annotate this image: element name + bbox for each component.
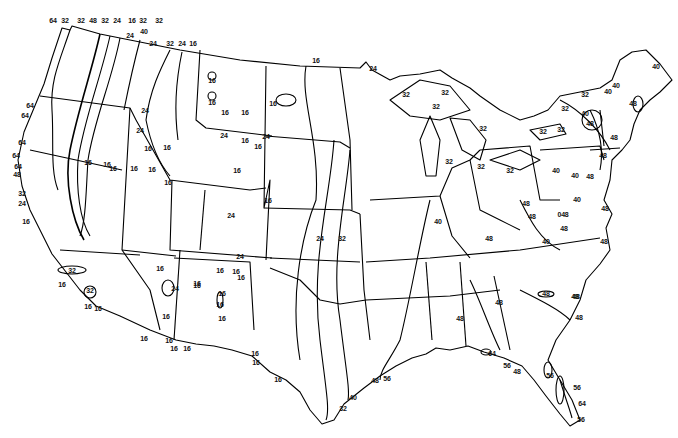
contour-label: 32 bbox=[61, 17, 68, 24]
contour-label: 16 bbox=[163, 144, 170, 151]
contour-label: 16 bbox=[164, 179, 171, 186]
contour-label: 32 bbox=[506, 167, 513, 174]
contour-label: 64 bbox=[18, 139, 25, 146]
contour-label: 48 bbox=[89, 17, 96, 24]
contour-label: 16 bbox=[216, 301, 223, 308]
contour-label: 16 bbox=[193, 282, 200, 289]
contour-label: 16 bbox=[162, 313, 169, 320]
contour-label: 16 bbox=[221, 109, 228, 116]
contour-label: 24 bbox=[126, 32, 133, 39]
contour-label: 40 bbox=[652, 63, 659, 70]
contour-label: 40 bbox=[542, 238, 549, 245]
contour-label: 32 bbox=[101, 17, 108, 24]
contour-label: 48 bbox=[586, 120, 593, 127]
contour-label: 16 bbox=[237, 274, 244, 281]
us-outline bbox=[18, 26, 672, 426]
contour-label: 64 bbox=[26, 102, 33, 109]
contour-label: 24 bbox=[171, 285, 178, 292]
contour-label: 24 bbox=[369, 65, 376, 72]
contour-label: 48 bbox=[485, 235, 492, 242]
contour-label: 48 bbox=[528, 213, 535, 220]
contour-label: 16 bbox=[241, 109, 248, 116]
contour-label: 16 bbox=[94, 305, 101, 312]
contour-label: 40 bbox=[552, 167, 559, 174]
contour-label: 40 bbox=[571, 172, 578, 179]
contour-label: 24 bbox=[262, 133, 269, 140]
contour-label: 32 bbox=[479, 125, 486, 132]
contour-label: 48 bbox=[586, 173, 593, 180]
contour-label: 16 bbox=[165, 337, 172, 344]
contour-label: 32 bbox=[338, 235, 345, 242]
contour-label: 32 bbox=[561, 105, 568, 112]
contour-label: 56 bbox=[503, 362, 510, 369]
contour-label: 24 bbox=[18, 200, 25, 207]
contour-label: 16 bbox=[84, 303, 91, 310]
contour-label: 16 bbox=[264, 197, 271, 204]
contour-label: 16 bbox=[252, 359, 259, 366]
contour-label: 48 bbox=[542, 290, 549, 297]
contour-label: 40 bbox=[604, 88, 611, 95]
contour-label: 048 bbox=[557, 211, 568, 218]
contour-label: 16 bbox=[269, 100, 276, 107]
contour-label: 16 bbox=[216, 267, 223, 274]
contour-label: 40 bbox=[573, 196, 580, 203]
contour-label: 48 bbox=[629, 100, 636, 107]
contour-label: 40 bbox=[349, 394, 356, 401]
contour-label: 48 bbox=[601, 205, 608, 212]
contour-label: 48 bbox=[600, 238, 607, 245]
contour-label: 48 bbox=[495, 299, 502, 306]
contour-label: 24 bbox=[113, 17, 120, 24]
contour-label: 16 bbox=[189, 40, 196, 47]
contour-label: 32 bbox=[139, 17, 146, 24]
contour-label: 40 bbox=[581, 110, 588, 117]
contour-label: 16 bbox=[140, 335, 147, 342]
contour-label: 16 bbox=[233, 167, 240, 174]
contour-label: 16 bbox=[312, 57, 319, 64]
contour-label: 32 bbox=[166, 40, 173, 47]
contour-label: 64 bbox=[488, 350, 495, 357]
contour-label: 48 bbox=[371, 377, 378, 384]
contour-label: 24 bbox=[178, 40, 185, 47]
contour-label: 24 bbox=[227, 212, 234, 219]
contour-label: 16 bbox=[58, 281, 65, 288]
contour-label: 48 bbox=[560, 225, 567, 232]
contour-label: 24 bbox=[149, 40, 156, 47]
contour-label: 24 bbox=[141, 107, 148, 114]
contour-label: 16 bbox=[84, 159, 91, 166]
contour-label: 24 bbox=[220, 132, 227, 139]
contour-label: 32 bbox=[18, 190, 25, 197]
contour-label: 48 bbox=[599, 152, 606, 159]
contour-label: 48 bbox=[610, 134, 617, 141]
contour-label: 64 bbox=[578, 400, 585, 407]
contour-label: 48 bbox=[456, 315, 463, 322]
us-outline-and-contours bbox=[0, 0, 678, 438]
contour-map: 6432324832241632322440243224161624161616… bbox=[0, 0, 678, 438]
contour-label: 40 bbox=[612, 82, 619, 89]
contour-label: 32 bbox=[581, 91, 588, 98]
contour-label: 16 bbox=[218, 290, 225, 297]
contour-label: 32 bbox=[77, 17, 84, 24]
contour-label: 16 bbox=[156, 265, 163, 272]
contour-label: 48 bbox=[522, 200, 529, 207]
contour-label: 16 bbox=[218, 315, 225, 322]
contour-label: 32 bbox=[432, 103, 439, 110]
contour-label: 16 bbox=[208, 77, 215, 84]
contour-label: 16 bbox=[241, 137, 248, 144]
contour-label: 16 bbox=[251, 350, 258, 357]
contour-label: 48 bbox=[513, 368, 520, 375]
contour-label: 32 bbox=[445, 158, 452, 165]
contour-label: 32 bbox=[86, 287, 93, 294]
contour-label: 16 bbox=[183, 345, 190, 352]
contour-label: 16 bbox=[274, 376, 281, 383]
contour-label: 48 bbox=[13, 171, 20, 178]
contour-label: 16 bbox=[148, 166, 155, 173]
contour-label: 64 bbox=[49, 17, 56, 24]
contour-label: 56 bbox=[577, 416, 584, 423]
contour-label: 16 bbox=[170, 345, 177, 352]
contour-label: 32 bbox=[557, 126, 564, 133]
contour-label: 64 bbox=[21, 112, 28, 119]
contour-label: 64 bbox=[12, 152, 19, 159]
contour-label: 16 bbox=[254, 143, 261, 150]
contour-label: 40 bbox=[434, 218, 441, 225]
contour-label: 16 bbox=[144, 145, 151, 152]
